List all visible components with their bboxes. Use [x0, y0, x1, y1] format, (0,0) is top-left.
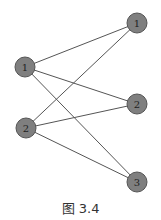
node-label: 2 [134, 99, 140, 110]
node-R3: 3 [127, 172, 147, 192]
nodes: 12123 [15, 13, 147, 192]
edge-L1-R1 [25, 23, 137, 67]
edge-L1-R2 [25, 67, 137, 104]
edge-L2-R3 [26, 128, 137, 182]
edge-L2-R1 [26, 23, 137, 128]
node-label: 1 [134, 18, 140, 29]
node-label: 2 [23, 123, 29, 134]
node-R2: 2 [127, 94, 147, 114]
node-R1: 1 [127, 13, 147, 33]
edges [25, 23, 137, 182]
bipartite-graph: 12123 [0, 0, 161, 220]
node-L1: 1 [15, 57, 35, 77]
node-L2: 2 [16, 118, 36, 138]
node-label: 3 [134, 177, 140, 188]
node-label: 1 [22, 62, 28, 73]
figure-caption: 图 3.4 [0, 198, 161, 217]
